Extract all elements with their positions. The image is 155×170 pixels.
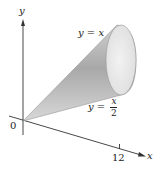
lower-fraction: x 2 bbox=[110, 97, 117, 118]
y-axis-label: y bbox=[19, 6, 25, 16]
diagram-graphic bbox=[0, 0, 155, 170]
cone-base-ellipse bbox=[106, 25, 136, 95]
upper-curve-label: y = x bbox=[78, 28, 104, 38]
upper-lhs: y bbox=[78, 27, 84, 38]
upper-rhs: x bbox=[98, 27, 104, 38]
y-axis bbox=[21, 19, 25, 135]
lower-lhs: y bbox=[88, 101, 94, 112]
lower-num: x bbox=[111, 97, 116, 106]
cone-diagram: y x 0 12 y = x y = x 2 bbox=[0, 0, 155, 170]
lower-eq: = bbox=[97, 101, 105, 112]
lower-den: 2 bbox=[111, 109, 117, 118]
lower-curve-label: y = x 2 bbox=[88, 97, 117, 118]
x-axis-arrow-icon bbox=[138, 152, 146, 157]
upper-eq: = bbox=[87, 27, 95, 38]
x-axis-label: x bbox=[147, 151, 153, 161]
y-axis-arrow-icon bbox=[21, 19, 25, 26]
x-axis bbox=[9, 116, 146, 157]
x-tick-label: 12 bbox=[112, 153, 125, 163]
origin-label: 0 bbox=[10, 121, 16, 131]
